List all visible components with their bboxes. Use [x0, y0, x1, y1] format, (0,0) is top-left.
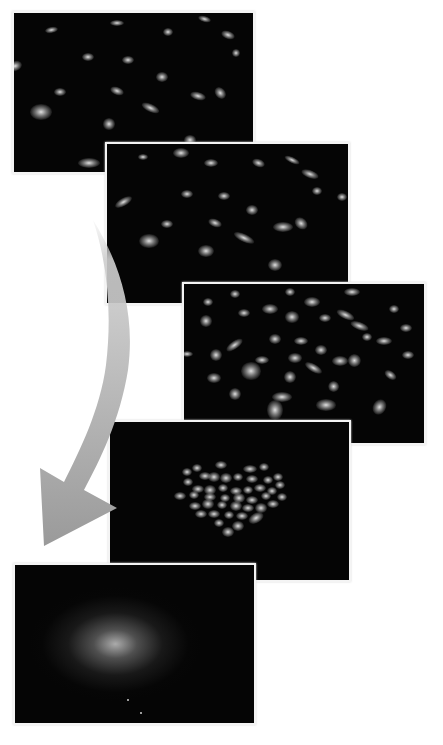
particle — [243, 465, 257, 473]
particle — [192, 464, 202, 472]
particle — [269, 334, 280, 344]
particle — [202, 499, 215, 509]
particle — [369, 397, 388, 417]
particle — [241, 362, 260, 380]
particle — [273, 473, 283, 481]
particle — [220, 29, 236, 41]
particle — [208, 510, 219, 518]
particle — [332, 356, 348, 366]
particle — [54, 88, 67, 96]
particle — [261, 492, 271, 500]
particle — [382, 368, 397, 382]
particle — [224, 511, 234, 519]
particle — [304, 297, 320, 307]
particle — [402, 351, 413, 359]
panel-stage-3 — [184, 284, 424, 443]
particle — [284, 371, 297, 384]
particle — [189, 502, 200, 510]
particle — [217, 501, 227, 509]
particle — [246, 496, 257, 504]
particle — [182, 468, 192, 476]
particle — [232, 521, 243, 531]
particle — [267, 400, 283, 419]
particle — [218, 192, 229, 200]
particle — [204, 159, 218, 167]
particle — [304, 360, 325, 377]
particle — [246, 475, 257, 483]
particle — [163, 28, 173, 36]
particle — [238, 309, 249, 317]
particle — [283, 154, 300, 167]
particle — [212, 85, 228, 101]
particle — [138, 154, 148, 160]
particle — [222, 527, 233, 537]
particle — [184, 351, 193, 357]
particle — [141, 100, 162, 115]
particle — [285, 288, 295, 296]
particle — [181, 190, 192, 198]
particle — [218, 484, 228, 492]
particle — [259, 463, 269, 471]
particle — [288, 353, 302, 363]
particle — [242, 504, 253, 512]
particle — [275, 481, 285, 489]
particle — [139, 234, 158, 248]
particle — [30, 104, 52, 120]
panel-stage-2 — [107, 144, 348, 303]
particle — [197, 14, 211, 23]
particle — [189, 491, 199, 499]
particle — [208, 472, 221, 482]
particle — [233, 473, 243, 481]
particle — [225, 336, 245, 354]
particle — [173, 148, 189, 158]
particle — [161, 220, 172, 228]
particle — [230, 290, 240, 298]
particle — [273, 222, 292, 232]
particle — [350, 319, 371, 333]
particle — [103, 118, 116, 129]
particle — [44, 26, 58, 35]
speck — [140, 712, 142, 714]
particle — [174, 492, 185, 500]
particle — [114, 194, 135, 211]
panel-stage-5 — [15, 565, 254, 723]
particle — [285, 311, 299, 322]
particle — [230, 501, 241, 511]
particle — [376, 337, 392, 345]
particle — [315, 345, 326, 355]
particle — [268, 259, 282, 272]
particle — [292, 215, 310, 233]
particle — [251, 157, 266, 169]
particle — [82, 53, 93, 61]
particle — [319, 314, 330, 322]
particle — [183, 478, 193, 486]
particle — [344, 288, 360, 296]
particle — [110, 20, 124, 26]
particle — [254, 484, 265, 492]
particle — [312, 187, 322, 195]
particle — [277, 493, 287, 501]
speck — [127, 699, 129, 701]
particle — [78, 158, 100, 168]
particle — [263, 476, 273, 484]
particle — [232, 230, 256, 247]
particle — [122, 56, 133, 64]
particle — [316, 399, 335, 410]
particle — [156, 72, 167, 82]
particle — [195, 510, 206, 518]
particle — [337, 193, 347, 201]
particle — [294, 337, 308, 345]
particle — [326, 379, 341, 394]
particle — [200, 315, 211, 326]
particle — [236, 512, 247, 520]
particle — [267, 500, 278, 508]
particle — [243, 486, 253, 494]
particle — [220, 473, 231, 483]
diffuse-glow — [15, 565, 254, 723]
particle — [362, 333, 372, 341]
panel-stage-4 — [110, 422, 349, 580]
particle — [210, 349, 223, 362]
particle — [400, 324, 411, 332]
particle — [198, 245, 214, 258]
particle — [214, 519, 224, 527]
